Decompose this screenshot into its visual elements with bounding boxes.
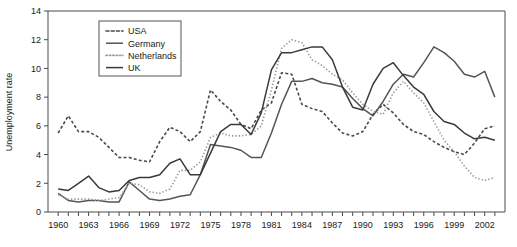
x-tick-label: 1969 (140, 220, 160, 230)
unemployment-rate-chart: 02468101214 1960196319661969197219751978… (0, 0, 517, 247)
y-tick-label: 2 (36, 179, 41, 189)
x-tick-label: 1981 (261, 220, 281, 230)
x-tick-label: 1978 (231, 220, 251, 230)
x-tick-label: 1990 (353, 220, 373, 230)
chart-canvas: 02468101214 1960196319661969197219751978… (0, 0, 517, 247)
y-tick-label: 12 (31, 35, 41, 45)
y-tick-label: 8 (36, 92, 41, 102)
y-tick-label: 10 (31, 64, 41, 74)
x-tick-label: 2002 (475, 220, 495, 230)
x-tick-label: 1960 (48, 220, 68, 230)
y-axis-title: Unemployment rate (4, 73, 14, 152)
x-axis: 1960196319661969197219751978198119841987… (48, 212, 505, 230)
x-tick-label: 1993 (383, 220, 403, 230)
x-tick-label: 1972 (170, 220, 190, 230)
chart-legend: USAGermanyNetherlandsUK (99, 21, 181, 76)
legend-label-germany: Germany (128, 39, 166, 49)
x-tick-label: 1996 (414, 220, 434, 230)
y-tick-label: 6 (36, 121, 41, 131)
y-tick-label: 0 (36, 207, 41, 217)
x-tick-label: 1975 (200, 220, 220, 230)
legend-label-uk: UK (128, 63, 141, 73)
y-tick-label: 4 (36, 150, 41, 160)
x-tick-label: 1987 (322, 220, 342, 230)
x-tick-label: 1966 (109, 220, 129, 230)
x-tick-label: 1984 (292, 220, 312, 230)
x-tick-label: 1999 (444, 220, 464, 230)
legend-label-usa: USA (128, 26, 147, 36)
legend-label-netherlands: Netherlands (128, 51, 177, 61)
x-tick-label: 1963 (79, 220, 99, 230)
y-tick-label: 14 (31, 6, 41, 16)
